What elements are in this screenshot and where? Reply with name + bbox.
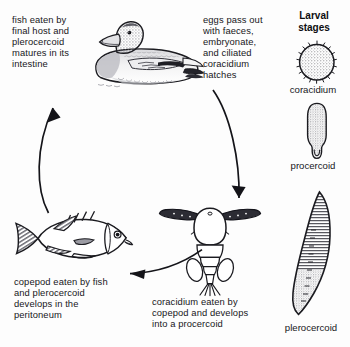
plerocercoid-leaf-body-icon: [289, 190, 337, 318]
life-cycle-diagram: fish eaten by final host and plerocercoi…: [0, 0, 350, 347]
procercoid-elongate-body-icon: [303, 102, 331, 160]
coracidium-ciliated-sphere-icon: [296, 42, 338, 84]
procercoid-label: procercoid: [276, 160, 350, 171]
duck-illustration-icon: [84, 14, 204, 98]
plerocercoid-label: plerocercoid: [272, 322, 350, 333]
coracidium-label: coracidium: [276, 84, 350, 95]
larval-stages-heading: Larval stages: [283, 10, 345, 33]
arrow-fish-to-duck-icon: [34, 86, 94, 214]
caption-coracidium-eaten-by-copepod: coracidium eaten by copepod and develops…: [152, 296, 280, 329]
arrow-copepod-to-fish-icon: [112, 248, 204, 286]
caption-eggs-pass-out: eggs pass out with faeces, embryonate, a…: [203, 14, 289, 81]
arrow-duck-to-copepod-icon: [200, 88, 256, 216]
